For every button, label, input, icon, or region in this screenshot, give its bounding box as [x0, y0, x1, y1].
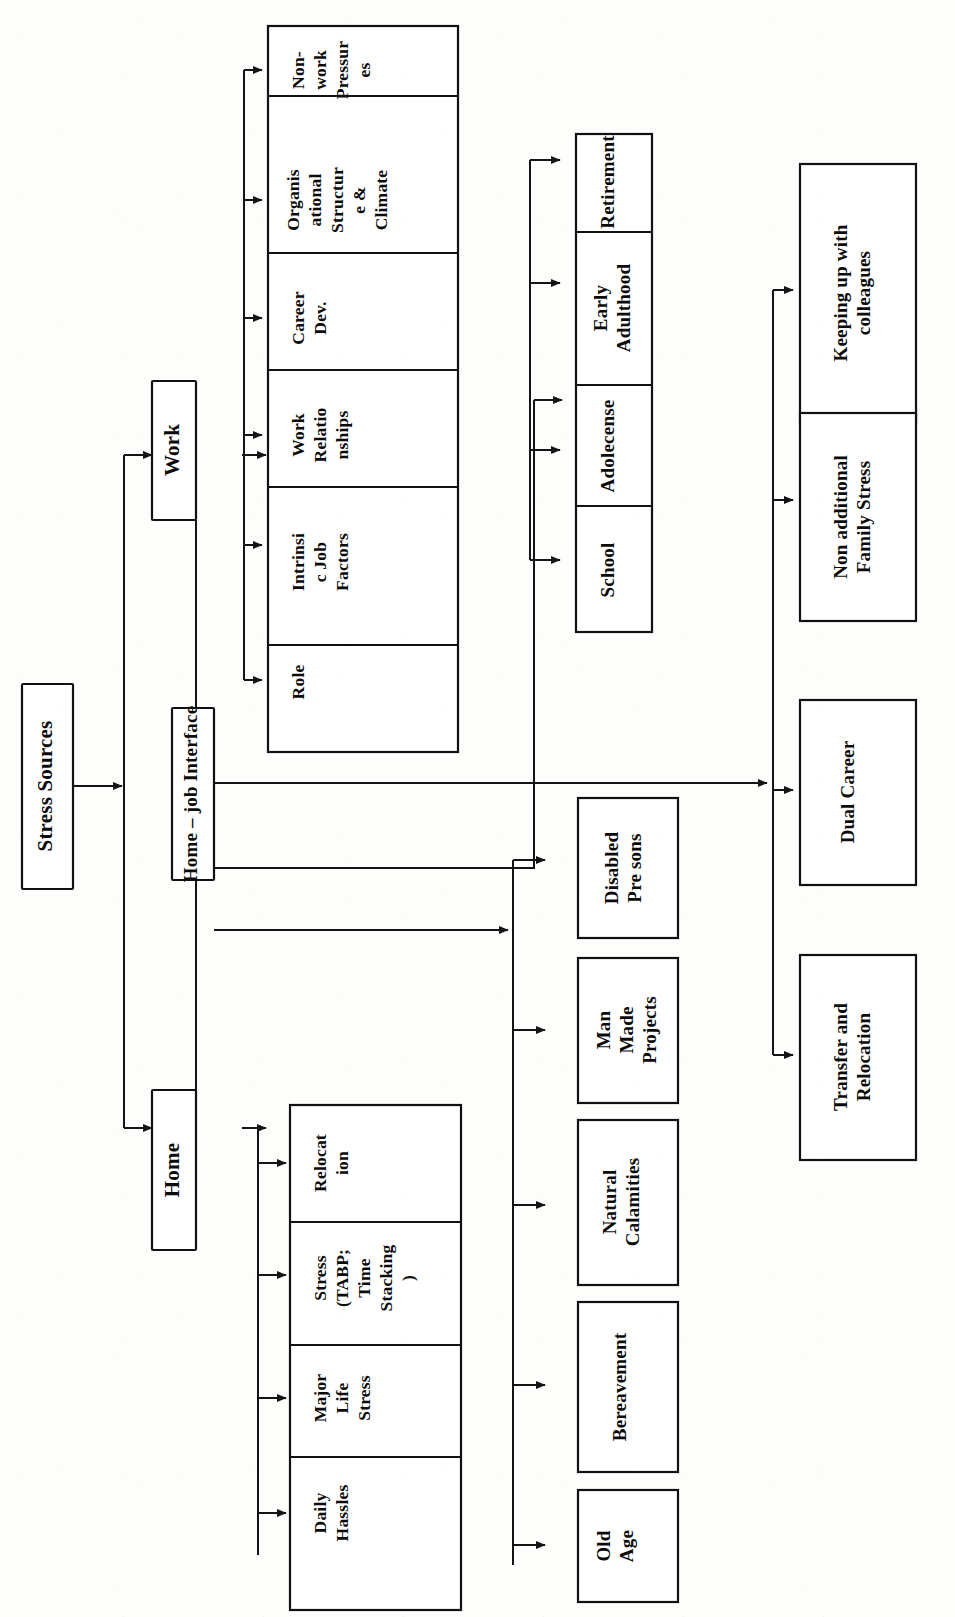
box-home-job-interface[interactable]: Home – job Interface	[172, 706, 214, 883]
box-non-additional-family-stress[interactable]: Non additionalFamily Stress	[800, 413, 916, 621]
box-stress-sources[interactable]: Stress Sources	[22, 684, 73, 889]
box-disabled-persons[interactable]: DisabledPre sons	[578, 798, 678, 938]
box-natural-calamities[interactable]: NaturalCalamities	[578, 1120, 678, 1285]
box-man-made-projects[interactable]: ManMadeProjects	[578, 958, 678, 1103]
box-retirement[interactable]: Retirement	[597, 135, 618, 229]
box-keeping-up-with-colleagues[interactable]: Keeping up withcolleagues	[800, 164, 916, 422]
label-home-job-interface: Home – job Interface	[180, 706, 201, 883]
box-role[interactable]: Role	[288, 665, 308, 700]
label-work-relationships: WorkRelationships	[288, 408, 352, 463]
label-bereavement: Bereavement	[609, 1332, 630, 1441]
box-adolecense[interactable]: Adolecense	[597, 400, 618, 493]
box-old-age[interactable]: OldAge	[578, 1490, 678, 1602]
stress-sources-flowchart: Stress Sources Work Home – job Interface…	[0, 0, 955, 1617]
box-work-relationships[interactable]: WorkRelationships	[288, 408, 352, 463]
box-organisational-structure-climate[interactable]: OrganisationalStructure &Climate	[283, 167, 391, 233]
label-retirement: Retirement	[597, 135, 618, 229]
group-life-events: DisabledPre sons ManMadeProjects Natural…	[578, 798, 678, 1602]
group-home-factors: Relocation Stress(TABP;TimeStacking) Maj…	[290, 1105, 461, 1610]
box-work[interactable]: Work	[152, 381, 196, 520]
group-interface-outcomes: Keeping up withcolleagues Non additional…	[800, 164, 916, 1160]
label-role: Role	[288, 665, 308, 700]
box-bereavement[interactable]: Bereavement	[578, 1302, 678, 1472]
label-adolecense: Adolecense	[597, 400, 618, 493]
label-dual-career: Dual Career	[837, 740, 858, 843]
label-stress-sources: Stress Sources	[33, 721, 57, 852]
box-dual-career[interactable]: Dual Career	[800, 700, 916, 885]
label-home: Home	[160, 1143, 184, 1197]
box-home[interactable]: Home	[152, 1090, 196, 1250]
label-organisational-structure-climate: OrganisationalStructure &Climate	[283, 167, 391, 233]
box-transfer-and-relocation[interactable]: Transfer andRelocation	[800, 955, 916, 1160]
label-work: Work	[160, 424, 184, 476]
group-life-stages: Retirement EarlyAdulthood Adolecense Sch…	[576, 134, 652, 632]
flowchart-canvas: Stress Sources Work Home – job Interface…	[0, 0, 955, 1617]
group-work-factors: Non-workPressures OrganisationalStructur…	[268, 26, 458, 752]
label-school: School	[597, 542, 618, 597]
box-school[interactable]: School	[597, 542, 618, 597]
